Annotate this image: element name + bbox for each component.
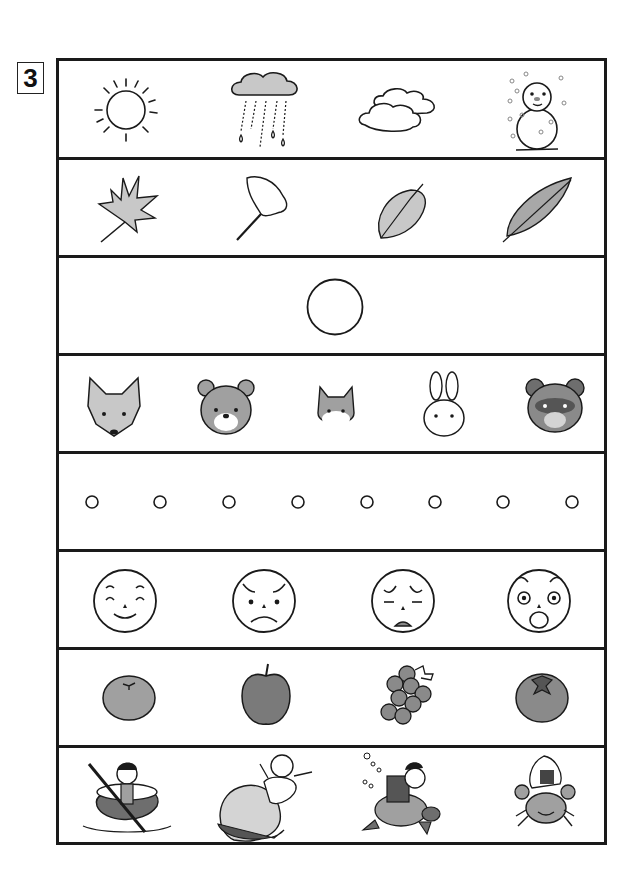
grapes-icon <box>377 664 439 730</box>
clouds-icon <box>357 85 447 135</box>
apple-icon <box>240 662 292 728</box>
serrated-leaf-icon <box>501 176 577 244</box>
row-faces <box>59 552 604 650</box>
question-number: 3 <box>17 62 44 94</box>
mandarin-orange-icon <box>101 674 157 722</box>
small-circles-group <box>59 454 604 552</box>
oval-leaf-icon <box>377 178 431 244</box>
surprised-face-icon <box>506 568 572 634</box>
row-leaves <box>59 160 604 258</box>
maple-leaf-icon <box>95 174 161 246</box>
row-folktales <box>59 748 604 842</box>
bear-face-icon <box>196 378 256 436</box>
rabbit-face-icon <box>422 372 466 438</box>
urashima-taro-turtle-icon <box>361 752 451 838</box>
worksheet-grid <box>56 58 607 845</box>
crab-with-rice-ball-icon <box>514 754 576 834</box>
row-fruits <box>59 650 604 748</box>
squirrel-face-icon <box>316 383 356 431</box>
rain-cloud-icon <box>229 69 301 151</box>
row-weather <box>59 61 604 160</box>
angry-face-icon <box>231 568 297 634</box>
row-animals <box>59 356 604 454</box>
issun-boshi-in-bowl-icon <box>83 756 173 838</box>
persimmon-icon <box>514 670 570 724</box>
ginkgo-leaf-icon <box>235 174 295 244</box>
snowman-icon <box>504 69 570 153</box>
happy-face-icon <box>92 568 158 634</box>
momotaro-peach-icon <box>214 752 318 842</box>
row-small-circles <box>59 454 604 552</box>
circle-shape <box>306 278 364 336</box>
sad-face-icon <box>370 568 436 634</box>
row-single-circle <box>59 258 604 356</box>
fox-face-icon <box>86 376 142 438</box>
sun-icon <box>91 75 161 145</box>
tanuki-face-icon <box>525 378 585 434</box>
